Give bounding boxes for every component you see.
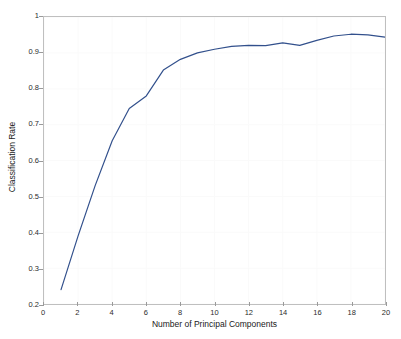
x-tick-label: 20 <box>382 309 390 317</box>
y-tick-mark <box>39 161 43 162</box>
y-tick-mark <box>39 233 43 234</box>
x-tick-mark <box>386 302 387 306</box>
x-tick-label: 4 <box>110 309 114 317</box>
y-tick-label: 0.5 <box>29 193 39 201</box>
x-tick-label: 0 <box>41 309 45 317</box>
x-tick-label: 14 <box>279 309 287 317</box>
y-tick-label: 0.7 <box>29 120 39 128</box>
y-tick-mark <box>39 16 43 17</box>
x-tick-label: 10 <box>210 309 218 317</box>
y-tick-mark <box>39 124 43 125</box>
x-tick-mark <box>317 302 318 306</box>
x-tick-label: 2 <box>75 309 79 317</box>
x-tick-mark <box>146 302 147 306</box>
x-tick-mark <box>249 302 250 306</box>
y-axis-title: Classification Rate <box>7 97 17 217</box>
y-tick-label: 0.8 <box>29 84 39 92</box>
y-tick-label: 0.3 <box>29 265 39 273</box>
plot-area <box>43 16 386 305</box>
x-tick-mark <box>43 302 44 306</box>
y-tick-label: 0.6 <box>29 157 39 165</box>
y-tick-label: 0.9 <box>29 48 39 56</box>
y-tick-mark <box>39 269 43 270</box>
x-tick-label: 8 <box>178 309 182 317</box>
y-tick-mark <box>39 88 43 89</box>
y-tick-mark <box>39 52 43 53</box>
figure-canvas: 0.20.30.40.50.60.70.80.91 02468101214161… <box>0 0 401 339</box>
x-tick-mark <box>352 302 353 306</box>
x-axis-title: Number of Principal Components <box>43 319 386 329</box>
x-tick-mark <box>180 302 181 306</box>
x-tick-label: 16 <box>313 309 321 317</box>
x-tick-mark <box>215 302 216 306</box>
y-tick-label: 0.4 <box>29 229 39 237</box>
data-series-line <box>44 17 385 304</box>
y-axis-tick-labels: 0.20.30.40.50.60.70.80.91 <box>0 0 39 339</box>
x-tick-label: 18 <box>348 309 356 317</box>
x-tick-label: 6 <box>144 309 148 317</box>
y-tick-mark <box>39 197 43 198</box>
x-tick-label: 12 <box>245 309 253 317</box>
x-tick-mark <box>112 302 113 306</box>
x-tick-mark <box>283 302 284 306</box>
x-tick-mark <box>77 302 78 306</box>
